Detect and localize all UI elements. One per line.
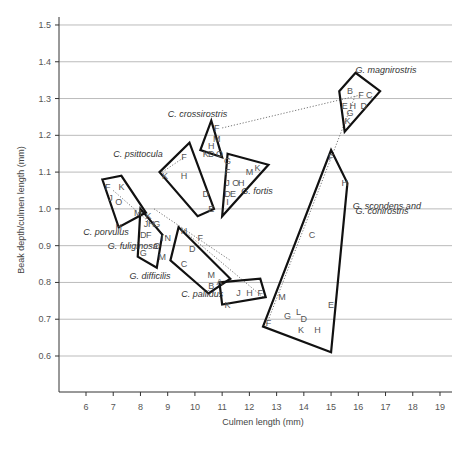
island-point: C (181, 259, 188, 269)
x-tick-label: 17 (381, 402, 391, 412)
y-tick-label: 0.6 (38, 351, 51, 361)
island-point: D (203, 189, 210, 199)
island-point: D (189, 244, 196, 254)
species-label: C. porvulus (83, 227, 129, 237)
y-tick-label: 1.3 (38, 94, 51, 104)
island-point: I (161, 233, 164, 243)
x-tick-label: 15 (326, 402, 336, 412)
y-tick-label: 1.2 (38, 130, 51, 140)
island-point: J (108, 193, 113, 203)
x-tick-label: 19 (435, 402, 445, 412)
island-point: C (309, 230, 316, 240)
island-point: D (208, 149, 215, 159)
island-point: B (347, 86, 353, 96)
island-point: D (360, 101, 367, 111)
species-label: G. conirostris (356, 206, 410, 216)
island-point: H (181, 171, 188, 181)
island-point: J (225, 178, 230, 188)
island-point: M (246, 167, 254, 177)
x-tick-label: 18 (408, 402, 418, 412)
island-point: H (314, 325, 321, 335)
y-tick-label: 1.5 (38, 20, 51, 30)
island-point: I (226, 197, 229, 207)
island-point: M (208, 270, 216, 280)
island-point: E (230, 189, 236, 199)
x-tick-label: 12 (244, 402, 254, 412)
island-point: O (216, 149, 223, 159)
island-point: C (366, 90, 373, 100)
x-tick-label: 6 (83, 402, 88, 412)
species-label: G. fuliginosa (108, 241, 158, 251)
island-point: F (258, 288, 264, 298)
island-point: E (208, 204, 214, 214)
x-tick-label: 9 (165, 402, 170, 412)
connector-line (184, 231, 263, 297)
island-point: K (225, 300, 231, 310)
y-tick-label: 0.7 (38, 314, 51, 324)
x-tick-label: 11 (217, 402, 226, 412)
island-point: M (158, 252, 166, 262)
island-point: K (298, 325, 304, 335)
y-tick-label: 1.4 (38, 57, 51, 67)
island-point: H (181, 226, 188, 236)
species-label: C. crossirostris (168, 109, 228, 119)
species-label: C. psittocula (113, 149, 163, 159)
island-point: G (224, 156, 231, 166)
island-point: H (246, 288, 253, 298)
x-tick-label: 10 (190, 402, 200, 412)
island-point: K (162, 171, 168, 181)
island-point: K (344, 116, 350, 126)
island-point: K (255, 163, 261, 173)
island-point: N (164, 233, 171, 243)
island-point: K (118, 182, 124, 192)
island-point: O (115, 197, 122, 207)
island-point: F (225, 167, 231, 177)
convex-hulls (102, 73, 380, 353)
island-point: D (301, 314, 308, 324)
island-point: H (341, 178, 348, 188)
island-point: M (134, 208, 142, 218)
island-point: F (146, 230, 152, 240)
species-label: G. magnirostris (356, 65, 418, 75)
y-tick-label: 0.8 (38, 277, 51, 287)
species-label: G. difficilis (130, 271, 172, 281)
island-point: A (216, 277, 222, 287)
species-label: C. pallidus (181, 289, 224, 299)
y-tick-label: 1.0 (38, 204, 51, 214)
island-point: F (181, 152, 187, 162)
x-tick-label: 8 (138, 402, 143, 412)
island-point: F (105, 182, 111, 192)
island-point: G (153, 219, 160, 229)
y-tick-label: 0.9 (38, 241, 51, 251)
island-point: F (328, 152, 334, 162)
y-axis-label: Beak depth/culmen length (mm) (16, 146, 26, 274)
x-tick-label: 14 (299, 402, 309, 412)
chart: 678910111213141516171819 0.60.70.80.91.0… (0, 0, 467, 451)
x-tick-label: 7 (111, 402, 116, 412)
x-ticks: 678910111213141516171819 (83, 392, 445, 412)
x-axis-label: Culmen length (mm) (222, 417, 304, 427)
island-point: F (198, 233, 204, 243)
island-point: E (328, 300, 334, 310)
y-tick-label: 1.1 (38, 167, 51, 177)
x-tick-label: 13 (272, 402, 282, 412)
island-point: G (284, 311, 291, 321)
island-point: F (266, 318, 272, 328)
species-label: G. fortis (241, 186, 273, 196)
x-tick-label: 16 (353, 402, 363, 412)
island-point: J (236, 288, 241, 298)
island-point: F (214, 123, 220, 133)
y-ticks: 0.60.70.80.91.01.11.21.31.41.5 (38, 20, 59, 361)
data-points: BFCEHDGKFMHKDOFKHDEGFMKJOHDEIFKJOMHKJHGD… (105, 86, 373, 335)
island-point: F (358, 90, 364, 100)
island-point: M (278, 292, 286, 302)
